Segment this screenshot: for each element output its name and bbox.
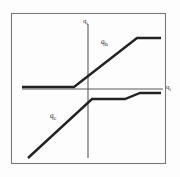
vertical-axis-label: qi	[83, 18, 88, 25]
horizontal-axis-label: qi	[166, 84, 171, 91]
curve-qc	[28, 93, 161, 158]
horizontal-axis-label-base: q	[166, 83, 170, 91]
curve-label-qc-subscript: c	[54, 114, 57, 120]
curve-qh	[22, 38, 161, 87]
curve-label-qh: qh	[101, 38, 108, 46]
horizontal-axis-label-subscript: i	[170, 87, 171, 92]
vertical-axis-label-subscript: i	[87, 21, 88, 26]
vertical-axis-label-base: q	[83, 17, 87, 25]
figure-container: qi qi qh qc	[0, 0, 180, 177]
diagram-canvas	[0, 0, 180, 177]
curve-label-qc: qc	[50, 112, 56, 120]
curve-label-qh-subscript: h	[105, 40, 108, 46]
